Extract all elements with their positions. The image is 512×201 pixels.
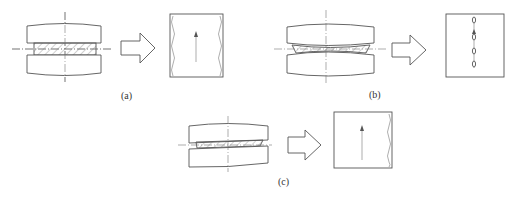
void-oval <box>472 61 475 67</box>
wavy-right-edge <box>219 16 222 76</box>
panel-b <box>274 10 504 84</box>
panel-b-result <box>446 14 504 77</box>
transform-arrow-icon <box>121 33 155 63</box>
lower-anvil <box>27 55 101 76</box>
panel-a-label: (a) <box>121 90 132 101</box>
upper-anvil <box>287 24 374 46</box>
figure-canvas <box>0 0 512 201</box>
panel-c <box>178 112 392 172</box>
up-arrow-icon <box>472 29 476 34</box>
wavy-right-edge <box>388 114 391 167</box>
upper-anvil <box>27 24 101 44</box>
result-box <box>446 14 504 77</box>
result-box <box>170 14 223 77</box>
panel-a <box>12 12 223 82</box>
lower-anvil <box>189 146 268 167</box>
lower-anvil <box>287 52 374 76</box>
panel-a-press-drawing <box>12 12 112 82</box>
void-oval <box>472 48 475 54</box>
transform-arrow-icon <box>392 35 426 65</box>
panel-c-result <box>334 112 392 168</box>
up-arrow-icon <box>194 31 198 37</box>
panel-c-press-drawing <box>178 116 272 172</box>
void-oval <box>472 17 475 23</box>
panel-b-press-drawing <box>274 10 388 84</box>
up-arrow-icon <box>360 125 364 131</box>
panel-b-label: (b) <box>369 89 381 100</box>
void-oval <box>472 34 475 40</box>
panel-c-label: (c) <box>278 176 289 187</box>
result-box <box>334 112 392 168</box>
panel-a-result <box>170 14 223 77</box>
transform-arrow-icon <box>288 130 321 160</box>
wavy-left-edge <box>172 16 175 76</box>
